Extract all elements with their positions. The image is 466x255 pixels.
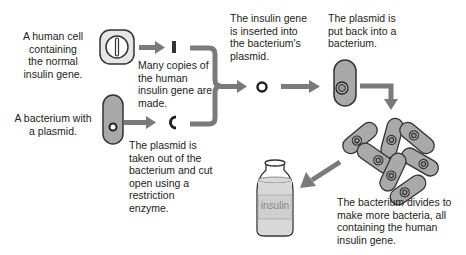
step-human-cell-label: A human cell containing the normal insul… <box>10 30 96 80</box>
step-copies-label: Many copies of the human insulin gene ar… <box>138 59 228 109</box>
text-line: insulin gene. <box>10 68 96 81</box>
recombinant-plasmid-icon <box>258 83 267 92</box>
text-line: The insulin gene <box>230 12 330 25</box>
text-line: containing <box>10 43 96 56</box>
text-line: is inserted into <box>230 25 330 38</box>
arrow-right-icon <box>124 116 156 129</box>
insulin-gene-icon <box>172 41 176 53</box>
arrow-right-icon <box>139 41 165 54</box>
text-line: insulin gene. <box>337 234 462 247</box>
step-divides-label: The bacterium divides to make more bacte… <box>337 196 462 246</box>
bottle-label: insulin <box>258 200 292 211</box>
cut-plasmid-icon <box>171 117 177 128</box>
arrow-right-icon <box>281 80 320 93</box>
text-line: The plasmid is <box>129 139 229 152</box>
text-line: the bacterium's <box>230 37 330 50</box>
text-line: plasmid. <box>230 50 330 63</box>
text-line: Many copies of <box>138 59 228 72</box>
text-line: bacterium and cut <box>129 164 229 177</box>
text-line: containing the human <box>337 221 462 234</box>
text-line: a plasmid. <box>8 125 98 138</box>
arrow-down-icon <box>360 86 398 110</box>
bacterium-icon <box>103 95 123 144</box>
text-line: put back into a <box>328 25 418 38</box>
step-bacterium-label: A bacterium with a plasmid. <box>8 112 98 137</box>
text-line: A bacterium with <box>8 112 98 125</box>
text-line: the human <box>138 72 228 85</box>
text-line: open using a <box>129 177 229 190</box>
insulin-bottle-icon <box>257 160 293 236</box>
text-line: make more bacteria, all <box>337 209 462 222</box>
modified-bacterium-icon <box>334 60 356 106</box>
bacteria-colony-icon <box>340 117 442 208</box>
text-line: the normal <box>10 55 96 68</box>
text-line: insulin gene are <box>138 84 228 97</box>
text-line: made. <box>138 97 228 110</box>
step-put-back-label: The plasmid is put back into a bacterium… <box>328 12 418 50</box>
human-cell-icon <box>100 30 134 64</box>
text-line: restriction <box>129 189 229 202</box>
text-line: bacterium. <box>328 37 418 50</box>
text-line: The plasmid is <box>328 12 418 25</box>
text-line: A human cell <box>10 30 96 43</box>
text-line: taken out of the <box>129 152 229 165</box>
text-line: The bacterium divides to <box>337 196 462 209</box>
step-cut-plasmid-label: The plasmid is taken out of the bacteriu… <box>129 139 229 214</box>
arrow-diagonal-icon <box>300 162 340 188</box>
step-inserted-label: The insulin gene is inserted into the ba… <box>230 12 330 62</box>
text-line: enzyme. <box>129 202 229 215</box>
